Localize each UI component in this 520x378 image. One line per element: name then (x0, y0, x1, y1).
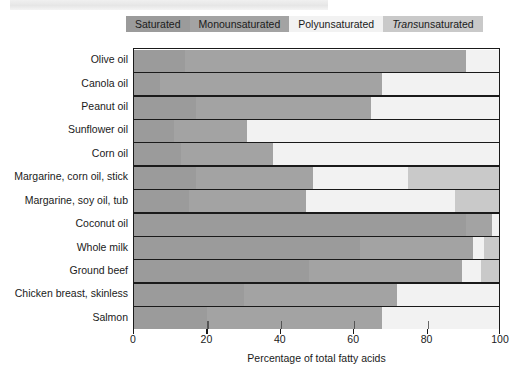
row-divider (134, 212, 499, 213)
bar-segment-sat (134, 190, 189, 212)
row-divider (134, 236, 499, 237)
legend-item-trans: Trans unsaturated (383, 16, 483, 32)
bar-segment-sat (134, 167, 196, 189)
bar-row (134, 307, 499, 329)
row-divider (134, 259, 499, 260)
y-axis-label: Sunflower oil (68, 124, 128, 135)
inner-tick-artifact (281, 321, 282, 329)
legend-label: Saturated (135, 19, 181, 30)
bar-segment-mono (207, 307, 382, 329)
bar-segment-sat (134, 237, 360, 259)
bar-segment-poly (397, 284, 499, 306)
bar-segment-poly (462, 260, 480, 282)
bar-segment-poly (247, 120, 499, 142)
bar-segment-mono (309, 260, 462, 282)
inner-tick-artifact (354, 321, 355, 329)
bar-row (134, 214, 499, 236)
x-axis-title: Percentage of total fatty acids (133, 352, 500, 364)
bar-segment-poly (382, 73, 499, 95)
y-axis-label: Margarine, soy oil, tub (25, 195, 128, 206)
bar-segment-sat (134, 50, 185, 72)
inner-tick-artifact (207, 321, 208, 329)
row-divider (134, 142, 499, 143)
legend-label-italic: Trans (392, 19, 418, 30)
row-divider (134, 165, 499, 166)
bar-row (134, 260, 499, 282)
row-divider (134, 282, 499, 283)
x-tick-label: 80 (421, 334, 433, 345)
bar-segment-poly (306, 190, 456, 212)
bar-segment-sat (134, 214, 466, 236)
bar-row (134, 50, 499, 72)
bar-segment-mono (160, 73, 383, 95)
inner-tick-artifact (428, 321, 429, 329)
bar-segment-poly (273, 143, 499, 165)
stacked-bars (134, 49, 499, 328)
x-axis-tick-labels: 020406080100 (133, 334, 500, 348)
legend-item-monounsaturated: Monounsaturated (190, 16, 290, 32)
bar-segment-sat (134, 120, 174, 142)
bar-row (134, 284, 499, 306)
bar-segment-tran (408, 167, 499, 189)
y-axis-label: Chicken breast, skinless (15, 288, 128, 299)
x-tick-label: 100 (491, 334, 509, 345)
bar-segment-poly (492, 214, 499, 236)
bar-segment-poly (466, 50, 499, 72)
y-axis-label: Peanut oil (81, 101, 128, 112)
legend-label: Monounsaturated (199, 19, 281, 30)
bar-segment-mono (196, 167, 313, 189)
bar-segment-sat (134, 73, 160, 95)
legend-label: unsaturated (418, 19, 473, 30)
y-axis-label: Salmon (92, 312, 128, 323)
bar-segment-tran (484, 237, 499, 259)
bar-segment-mono (185, 50, 466, 72)
bar-row (134, 97, 499, 119)
scan-banner (10, 0, 328, 10)
bar-segment-mono (466, 214, 492, 236)
legend-item-polyunsaturated: Polyunsaturated (289, 16, 383, 32)
y-axis-label: Ground beef (70, 265, 128, 276)
bar-segment-tran (455, 190, 499, 212)
bar-segment-sat (134, 284, 244, 306)
y-axis-label: Corn oil (92, 148, 128, 159)
x-tick-label: 0 (130, 334, 136, 345)
y-axis-label: Canola oil (81, 78, 128, 89)
bar-row (134, 167, 499, 189)
bar-segment-sat (134, 143, 181, 165)
bar-segment-poly (371, 97, 499, 119)
x-tick-label: 60 (347, 334, 359, 345)
x-tick-label: 40 (274, 334, 286, 345)
bar-segment-mono (196, 97, 371, 119)
plot-area (133, 48, 500, 329)
bar-row (134, 120, 499, 142)
row-divider (134, 189, 499, 190)
row-divider (134, 95, 499, 96)
row-divider (134, 306, 499, 307)
bar-segment-mono (189, 190, 306, 212)
bar-segment-sat (134, 260, 309, 282)
bar-segment-mono (181, 143, 272, 165)
bar-row (134, 237, 499, 259)
bar-segment-mono (360, 237, 473, 259)
x-tick-label: 20 (201, 334, 213, 345)
y-axis-label: Olive oil (91, 54, 128, 65)
legend-label: Polyunsaturated (298, 19, 374, 30)
bar-segment-poly (313, 167, 408, 189)
bar-segment-poly (382, 307, 499, 329)
bar-segment-mono (174, 120, 247, 142)
bar-row (134, 73, 499, 95)
chart-legend: SaturatedMonounsaturatedPolyunsaturatedT… (126, 16, 483, 32)
bar-segment-poly (473, 237, 484, 259)
legend-item-saturated: Saturated (126, 16, 190, 32)
bar-segment-tran (481, 260, 499, 282)
bar-segment-sat (134, 97, 196, 119)
row-divider (134, 72, 499, 73)
y-axis-label: Whole milk (77, 242, 128, 253)
bar-row (134, 190, 499, 212)
y-axis-label: Coconut oil (75, 218, 128, 229)
row-divider (134, 119, 499, 120)
y-axis-labels: Olive oilCanola oilPeanut oilSunflower o… (0, 48, 128, 329)
bar-segment-sat (134, 307, 207, 329)
y-axis-label: Margarine, corn oil, stick (14, 171, 128, 182)
bar-segment-mono (244, 284, 397, 306)
